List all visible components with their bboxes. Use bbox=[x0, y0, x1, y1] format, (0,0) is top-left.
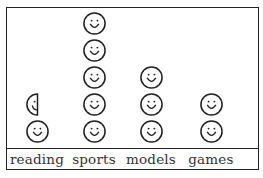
half-smiley-face-icon bbox=[25, 92, 50, 117]
column-sports bbox=[79, 9, 109, 144]
column-reading bbox=[22, 90, 52, 144]
smiley-face-icon bbox=[82, 92, 107, 117]
smiley-face-icon bbox=[82, 38, 107, 63]
smiley-face-icon bbox=[199, 119, 224, 144]
smiley-face-icon bbox=[139, 92, 164, 117]
smiley-face-icon bbox=[199, 92, 224, 117]
label-divider bbox=[7, 148, 258, 149]
smiley-face-icon bbox=[82, 65, 107, 90]
smiley-face-icon bbox=[82, 119, 107, 144]
smiley-face-icon bbox=[82, 11, 107, 36]
smiley-face-icon bbox=[139, 65, 164, 90]
column-games bbox=[196, 90, 226, 144]
pictograph-frame: reading sports models games bbox=[6, 7, 259, 170]
label-games: games bbox=[176, 151, 246, 167]
smiley-face-icon bbox=[139, 119, 164, 144]
column-models bbox=[136, 63, 166, 144]
smiley-face-icon bbox=[25, 119, 50, 144]
